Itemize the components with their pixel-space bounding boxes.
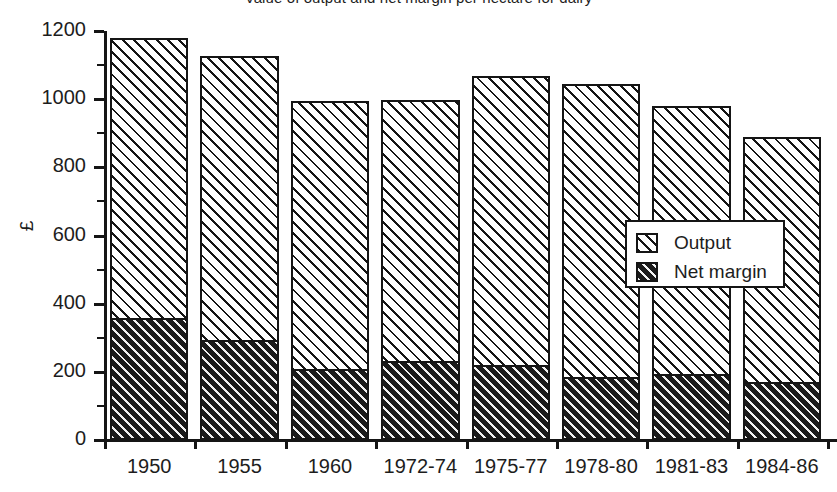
bar-segment-net-margin[interactable] — [743, 382, 821, 440]
y-tick-major — [94, 235, 104, 238]
y-tick-label: 600 — [30, 223, 86, 246]
x-tick — [104, 439, 107, 449]
x-tick-label: 1981-83 — [646, 455, 736, 478]
y-tick-label: 1200 — [30, 18, 86, 41]
x-tick — [737, 439, 740, 449]
y-tick-label: 800 — [30, 154, 86, 177]
bar-segment-net-margin[interactable] — [472, 365, 550, 440]
bar-segment-net-margin[interactable] — [200, 340, 278, 440]
y-tick-label: 0 — [30, 427, 86, 450]
bar-segment-net-margin[interactable] — [110, 318, 188, 440]
legend-item-net-margin[interactable]: Net margin — [627, 257, 783, 286]
x-tick — [194, 439, 197, 449]
y-tick-major — [94, 98, 104, 101]
x-tick-label: 1955 — [194, 455, 284, 478]
y-tick-major — [94, 371, 104, 374]
legend: Output Net margin — [625, 220, 785, 288]
legend-label-net-margin: Net margin — [674, 261, 767, 283]
y-tick-label: 200 — [30, 359, 86, 382]
bar-segment-net-margin[interactable] — [652, 374, 730, 440]
x-tick-label: 1975-77 — [466, 455, 556, 478]
y-tick-minor — [97, 337, 104, 339]
x-tick-label: 1978-80 — [556, 455, 646, 478]
y-tick-minor — [97, 64, 104, 66]
x-tick — [375, 439, 378, 449]
x-tick — [556, 439, 559, 449]
bar-column[interactable] — [743, 137, 821, 440]
bar-segment-net-margin[interactable] — [562, 377, 640, 440]
y-tick-minor — [97, 405, 104, 407]
x-tick — [466, 439, 469, 449]
y-tick-major — [94, 439, 104, 442]
x-tick-label: 1972-74 — [375, 455, 465, 478]
chart-title: Value of output and net margin per hecta… — [0, 0, 837, 6]
y-tick-major — [94, 166, 104, 169]
y-tick-label: 400 — [30, 291, 86, 314]
bar-column[interactable] — [200, 56, 278, 440]
x-tick-label: 1950 — [104, 455, 194, 478]
legend-label-output: Output — [674, 232, 731, 254]
x-tick — [646, 439, 649, 449]
legend-item-output[interactable]: Output — [627, 228, 783, 257]
x-tick — [827, 439, 830, 449]
bar-column[interactable] — [381, 100, 459, 440]
bar-segment-net-margin[interactable] — [291, 369, 369, 440]
y-tick-major — [94, 30, 104, 33]
y-tick-minor — [97, 132, 104, 134]
bar-segment-net-margin[interactable] — [381, 361, 459, 440]
y-tick-label: 1000 — [30, 86, 86, 109]
y-tick-minor — [97, 269, 104, 271]
x-tick — [285, 439, 288, 449]
y-axis-line — [104, 31, 107, 441]
chart-root: Value of output and net margin per hecta… — [0, 0, 837, 492]
x-tick-label: 1960 — [285, 455, 375, 478]
legend-swatch-net-margin — [636, 262, 658, 282]
bar-column[interactable] — [291, 101, 369, 440]
y-tick-major — [94, 303, 104, 306]
bar-column[interactable] — [110, 38, 188, 440]
bar-column[interactable] — [472, 76, 550, 440]
y-tick-minor — [97, 200, 104, 202]
x-tick-label: 1984-86 — [737, 455, 827, 478]
legend-swatch-output — [636, 233, 658, 253]
